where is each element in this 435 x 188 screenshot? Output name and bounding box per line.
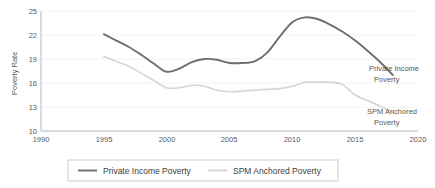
series-group [104, 17, 393, 112]
x-tick-2015: 2015 [347, 135, 364, 144]
chart-canvas: 25 22 19 16 13 10 1990 1995 2000 2005 20… [0, 0, 435, 188]
axes [41, 11, 418, 131]
y-tick-16: 16 [29, 79, 37, 88]
x-tick-2020: 2020 [410, 135, 427, 144]
annotation-spm-anchored-line2: Poverty [374, 118, 400, 127]
chart-legend: Private Income Poverty SPM Anchored Pove… [68, 160, 338, 181]
x-tick-labels: 1990 1995 2000 2005 2010 2015 2020 [33, 135, 427, 144]
annotation-spm-anchored-poverty: SPM Anchored Poverty [367, 107, 417, 127]
series-line-private-income-poverty [104, 17, 393, 75]
poverty-rate-line-chart: 25 22 19 16 13 10 1990 1995 2000 2005 20… [0, 0, 435, 188]
legend-label-spm-anchored-poverty: SPM Anchored Poverty [233, 166, 322, 176]
y-tick-13: 13 [29, 103, 37, 112]
y-axis-title: Poverty Rate [10, 52, 19, 95]
y-tick-25: 25 [29, 7, 37, 16]
y-tick-labels: 25 22 19 16 13 10 [29, 7, 37, 136]
x-tick-1995: 1995 [96, 135, 113, 144]
y-tick-22: 22 [29, 31, 37, 40]
x-tick-2000: 2000 [159, 135, 176, 144]
x-tick-2010: 2010 [284, 135, 301, 144]
annotation-private-income-poverty: Private Income Poverty [369, 64, 419, 84]
y-tick-19: 19 [29, 55, 37, 64]
x-tick-2005: 2005 [221, 135, 238, 144]
annotation-spm-anchored-line1: SPM Anchored [367, 107, 417, 116]
legend-label-private-income-poverty: Private Income Poverty [103, 166, 192, 176]
x-tick-1990: 1990 [33, 135, 50, 144]
series-line-spm-anchored-poverty [104, 57, 393, 113]
annotation-private-income-line1: Private Income [369, 64, 419, 73]
annotation-private-income-line2: Poverty [374, 75, 400, 84]
